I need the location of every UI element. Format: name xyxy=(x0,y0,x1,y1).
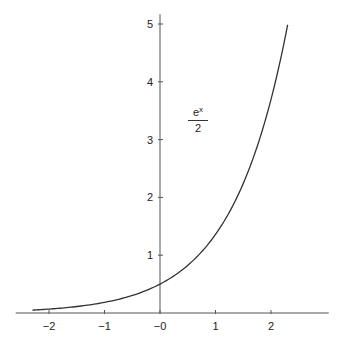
y-tick-label: 4 xyxy=(147,76,153,88)
y-axis-ticks: 12345 xyxy=(147,18,163,261)
axes xyxy=(16,14,329,313)
formula-exponent: x xyxy=(199,105,203,114)
chart-canvas: −2−1−012 12345 xyxy=(0,0,341,341)
formula-numerator: ex xyxy=(186,104,210,118)
x-tick-label: 2 xyxy=(268,320,274,332)
x-tick-label: −1 xyxy=(98,320,111,332)
fraction-bar xyxy=(188,120,208,121)
formula-annotation: ex 2 xyxy=(186,104,210,134)
x-tick-label: −2 xyxy=(43,320,56,332)
y-tick-label: 1 xyxy=(147,249,153,261)
y-tick-label: 5 xyxy=(147,18,153,30)
x-tick-label: 1 xyxy=(212,320,218,332)
y-tick-label: 2 xyxy=(147,191,153,203)
x-tick-label: −0 xyxy=(154,320,167,332)
y-tick-label: 3 xyxy=(147,134,153,146)
formula-denominator: 2 xyxy=(186,122,210,134)
